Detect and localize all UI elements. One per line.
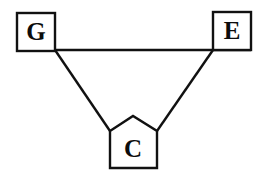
diagram-svg: G E C — [0, 0, 263, 179]
edge-g-c — [55, 50, 110, 131]
diagram-canvas: G E C — [0, 0, 263, 179]
edge-e-c — [157, 50, 213, 131]
node-c-label: C — [124, 135, 142, 162]
node-e-label: E — [224, 17, 241, 44]
node-g-label: G — [26, 18, 45, 45]
